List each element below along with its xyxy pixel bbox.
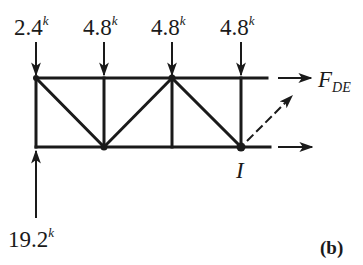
joint-top-left: [33, 75, 39, 81]
load-label-1: 2.4k: [14, 13, 49, 40]
load-label-2: 4.8k: [83, 13, 118, 40]
force-label-fde: FDE: [317, 67, 351, 95]
diagonal-member-2: [104, 78, 172, 147]
joint-label-i: I: [235, 158, 245, 183]
reaction-label: 19.2k: [8, 225, 54, 252]
force-arrow-diagonal: [247, 96, 292, 141]
joint-bottom-2: [101, 144, 108, 151]
diagonal-member-1: [36, 78, 104, 147]
load-arrows: [36, 42, 241, 75]
truss-members: [36, 78, 270, 147]
panel-label: (b): [320, 237, 343, 259]
diagonal-member-3: [172, 78, 241, 147]
load-label-3: 4.8k: [151, 13, 186, 40]
truss-diagram: 2.4k 4.8k 4.8k 4.8k 19.2k FDE I (b): [0, 0, 363, 265]
joint-top-3: [169, 75, 176, 82]
joint-i: [237, 143, 246, 152]
load-label-4: 4.8k: [220, 13, 255, 40]
